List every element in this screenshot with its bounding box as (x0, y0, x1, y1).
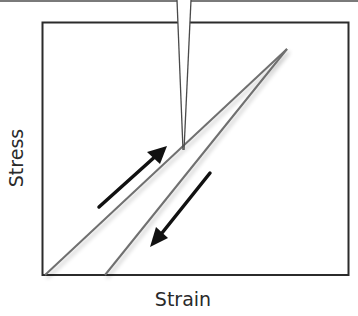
needle-mask (177, 0, 191, 150)
loading-arrow-icon (99, 146, 167, 207)
diagram-canvas (0, 0, 358, 316)
y-axis-label: Stress (5, 129, 27, 187)
loading-curve (45, 49, 287, 275)
unloading-arrow-icon (150, 173, 210, 247)
x-axis-label: Strain (155, 288, 211, 310)
unloading-curve (105, 49, 287, 275)
stress-strain-diagram: Stress Strain (0, 0, 358, 316)
plot-frame (43, 23, 349, 276)
